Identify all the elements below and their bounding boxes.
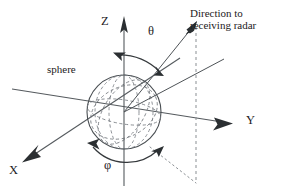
y-axis-line [12,89,222,122]
z-axis-label: Z [101,14,109,28]
x-axis-label: X [9,163,18,177]
radar-direction-label: Direction to receiving radar [190,7,256,32]
phi-angle-label: φ [104,158,111,172]
radar-direction-label-line1: Direction to [190,7,256,19]
spherical-coordinate-diagram: Z Y X θ φ sphere Direction to receiving … [0,0,282,196]
theta-angle-label: θ [148,24,154,38]
arrow-down-left-icon [22,145,41,163]
sphere-label: sphere [47,63,76,75]
y-axis-label: Y [246,113,255,127]
arc-arrow-icon-phi-end [151,146,164,157]
radar-direction-label-line2: receiving radar [190,19,256,31]
arrow-right-icon [213,117,233,130]
